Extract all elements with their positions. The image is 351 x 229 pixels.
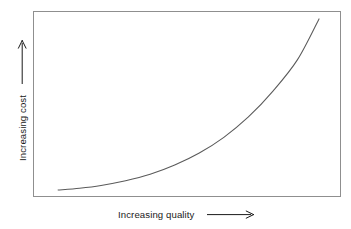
x-axis-label: Increasing quality: [118, 209, 195, 220]
figure-container: Increasing cost Increasing quality: [0, 0, 351, 229]
cost-vs-quality-chart: Increasing cost Increasing quality: [0, 0, 351, 229]
y-axis-label-group: Increasing cost: [17, 41, 28, 162]
plot-area-frame: [34, 12, 341, 197]
x-axis-label-group: Increasing quality: [118, 209, 254, 220]
y-axis-label: Increasing cost: [17, 95, 28, 161]
